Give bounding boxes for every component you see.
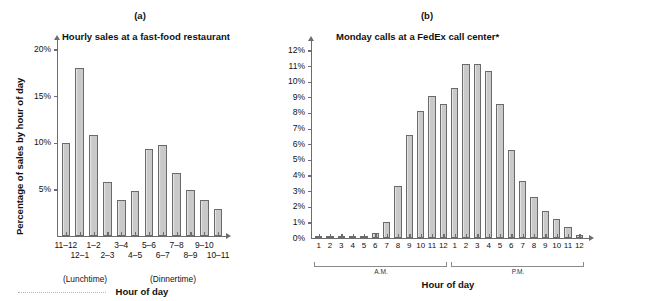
panel-b-plot-area: 0%1%2%3%4%5%6%7%8%9%10%11%12% 1234567891… <box>262 0 647 301</box>
panel-a-annotation-dinnertime: (Dinnertime) <box>128 274 218 284</box>
y-tick <box>308 144 312 145</box>
x-tick <box>353 234 354 239</box>
bracket-am <box>314 262 447 267</box>
x-tick <box>421 234 422 239</box>
x-tick <box>364 234 365 239</box>
y-tick-label: 7% <box>269 123 305 133</box>
y-tick-label: 3% <box>269 186 305 196</box>
x-tick <box>534 234 535 239</box>
x-tick <box>149 232 150 237</box>
x-tick <box>477 234 478 239</box>
y-tick <box>308 66 312 67</box>
x-tick <box>107 232 108 237</box>
y-tick-label: 0% <box>269 233 305 243</box>
y-tick-label: 5% <box>269 154 305 164</box>
bracket-pm <box>451 262 584 267</box>
x-tick <box>511 234 512 239</box>
x-tick <box>523 234 524 239</box>
bar <box>117 200 126 236</box>
y-tick-label: 6% <box>269 139 305 149</box>
x-tick-label: 9–10 <box>186 240 222 250</box>
panel-a-annotation-lunchtime: (Lunchtime) <box>40 274 130 284</box>
y-tick <box>308 97 312 98</box>
y-tick-label: 4% <box>269 170 305 180</box>
y-tick-label: 9% <box>269 92 305 102</box>
x-tick <box>557 234 558 239</box>
footnote-rule <box>18 292 106 293</box>
panel-b-y-axis <box>311 41 312 239</box>
y-tick-label: 20% <box>15 44 51 54</box>
panel-b: (b) Monday calls at a FedEx call center*… <box>262 0 647 301</box>
bar <box>440 104 447 238</box>
y-tick <box>308 129 312 130</box>
y-tick-label: 12% <box>269 45 305 55</box>
bar <box>428 96 435 238</box>
bar <box>406 135 413 238</box>
y-tick <box>308 113 312 114</box>
x-tick <box>500 234 501 239</box>
x-tick <box>409 234 410 239</box>
y-tick <box>308 207 312 208</box>
x-tick-label: 12 <box>561 241 597 250</box>
bar <box>451 88 458 238</box>
panel-a-x-axis-arrow <box>226 233 231 239</box>
x-tick <box>387 234 388 239</box>
x-tick <box>121 232 122 237</box>
x-tick <box>489 234 490 239</box>
bar <box>519 181 526 238</box>
x-tick <box>204 232 205 237</box>
bar <box>89 135 98 236</box>
bar <box>417 111 424 238</box>
bar <box>394 186 401 238</box>
x-tick <box>568 234 569 239</box>
y-tick-label: 5% <box>15 184 51 194</box>
x-tick <box>375 234 376 239</box>
bar <box>75 68 84 236</box>
x-tick <box>177 232 178 237</box>
x-tick <box>579 234 580 239</box>
x-tick <box>218 232 219 237</box>
y-tick-label: 8% <box>269 107 305 117</box>
bar <box>462 64 469 238</box>
y-tick <box>308 160 312 161</box>
bar <box>200 200 209 236</box>
x-tick <box>398 234 399 239</box>
panel-b-x-axis-title: Hour of day <box>398 279 498 290</box>
x-tick <box>330 234 331 239</box>
y-tick <box>54 143 58 144</box>
panel-a-x-axis <box>57 236 226 237</box>
x-tick <box>341 234 342 239</box>
panel-b-y-axis-arrow <box>308 36 314 41</box>
y-tick <box>308 175 312 176</box>
x-tick <box>80 232 81 237</box>
bar <box>62 143 71 236</box>
bar <box>172 173 181 236</box>
figure-two-panel-bar-charts: (a) Hourly sales at a fast-food restaura… <box>0 0 647 301</box>
y-tick <box>308 50 312 51</box>
y-tick <box>308 82 312 83</box>
bar <box>485 71 492 238</box>
y-tick <box>54 96 58 97</box>
bar <box>508 150 515 238</box>
x-tick <box>545 234 546 239</box>
x-tick <box>455 234 456 239</box>
bar <box>474 64 481 238</box>
x-tick <box>466 234 467 239</box>
x-tick-label: 10–11 <box>200 250 236 260</box>
x-tick <box>163 232 164 237</box>
bar <box>158 145 167 236</box>
y-tick-label: 11% <box>269 61 305 71</box>
bar <box>530 197 537 238</box>
bar <box>496 104 503 238</box>
panel-a-y-axis <box>57 40 58 237</box>
bar <box>145 149 154 236</box>
panel-a-x-axis-title: Hour of day <box>92 286 192 297</box>
x-tick <box>66 232 67 237</box>
x-tick <box>135 232 136 237</box>
y-tick-label: 15% <box>15 91 51 101</box>
y-tick <box>308 191 312 192</box>
panel-a-y-axis-arrow <box>54 35 60 40</box>
y-tick <box>54 49 58 50</box>
y-tick-label: 10% <box>15 137 51 147</box>
y-tick-label: 1% <box>269 217 305 227</box>
